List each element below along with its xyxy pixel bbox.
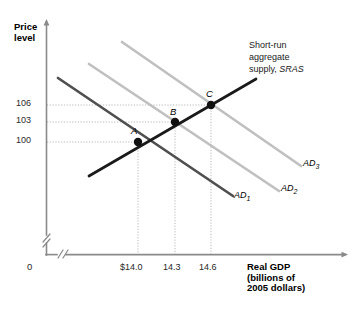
origin-label: 0: [27, 262, 32, 273]
point-b: [171, 118, 179, 126]
curve-label-ad2: AD2: [281, 183, 297, 196]
x-axis-break-1: [58, 250, 63, 258]
x-axis-arrow: [342, 252, 349, 258]
curve-label-ad3-sub: 3: [316, 163, 320, 170]
sras-label-line2: aggregate: [249, 52, 304, 64]
y-tick-label-100: 100: [16, 135, 31, 145]
point-a: [134, 138, 142, 146]
point-label-b: B: [170, 107, 176, 118]
x-tick-label-14-6: 14.6: [199, 262, 217, 272]
curve-label-ad2-text: AD: [281, 183, 294, 193]
curve-label-ad1-sub: 1: [247, 195, 251, 202]
curve-label-ad3: AD3: [303, 158, 319, 171]
x-axis-title: Real GDP (billions of 2005 dollars): [247, 262, 305, 294]
x-tick-label-14-3: 14.3: [163, 262, 181, 272]
y-tick-label-106: 106: [16, 98, 31, 108]
point-label-a: A: [131, 126, 137, 137]
sras-curve-label: Short-run aggregate supply, SRAS: [249, 40, 304, 76]
x-axis-title-line3: 2005 dollars): [247, 283, 305, 294]
curve-sras: [89, 79, 256, 176]
curve-label-ad1-text: AD: [234, 190, 247, 200]
chart-figure: Price level 106 103 100 0 $14.0 14.3 14.…: [0, 0, 353, 309]
sras-label-line3: supply, SRAS: [249, 64, 304, 76]
x-tick-label-14-0: $14.0: [120, 262, 143, 272]
curve-label-ad3-text: AD: [303, 158, 316, 168]
sras-label-prefix: supply,: [249, 64, 279, 74]
point-c: [207, 101, 215, 109]
y-axis-title-line2: level: [14, 33, 37, 44]
y-axis-arrow: [44, 19, 50, 26]
y-axis-title: Price level: [14, 22, 37, 43]
sras-label-abbrev: SRAS: [279, 64, 304, 74]
curve-label-ad2-sub: 2: [294, 188, 298, 195]
curve-label-ad1: AD1: [234, 190, 250, 203]
y-tick-label-103: 103: [16, 115, 31, 125]
point-label-c: C: [206, 89, 213, 100]
sras-label-line1: Short-run: [249, 40, 304, 52]
